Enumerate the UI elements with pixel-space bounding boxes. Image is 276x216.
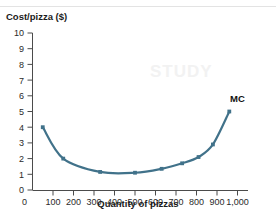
y-axis-tick-labels: 012345678910 [14, 28, 24, 195]
chart-plot-area: 012345678910 010020030040050060070080090… [0, 0, 276, 216]
y-tick-label: 6 [19, 91, 24, 101]
y-tick-label: 7 [19, 76, 24, 86]
series-data-point [211, 143, 215, 147]
chart-annotation-layer: MC [230, 93, 245, 104]
series-label-mc: MC [230, 93, 245, 104]
series-data-point [197, 155, 201, 159]
y-axis-group: 012345678910 [14, 28, 33, 195]
x-axis-ticks [53, 191, 238, 196]
y-tick-label: 5 [19, 107, 24, 117]
y-tick-label: 1 [19, 170, 24, 180]
y-tick-label: 3 [19, 138, 24, 148]
series-data-point [160, 167, 164, 171]
marginal-cost-chart-figure: STUDY Cost/pizza ($) 012345678910 010020… [0, 0, 276, 216]
y-tick-label: 2 [19, 154, 24, 164]
series-data-point [133, 171, 137, 175]
series-data-point [227, 110, 231, 114]
y-tick-label: 8 [19, 60, 24, 70]
series-data-point [98, 170, 102, 174]
data-series-layer [41, 110, 231, 175]
y-tick-label: 0 [19, 185, 24, 195]
x-axis-title: Quantity of pizzas [0, 198, 276, 209]
series-data-point [61, 157, 65, 161]
y-tick-label: 4 [19, 123, 24, 133]
series-line-mc [43, 112, 230, 174]
series-data-point [180, 161, 184, 165]
series-data-point [41, 125, 45, 129]
y-tick-label: 10 [14, 28, 24, 38]
y-axis-ticks [28, 33, 33, 190]
y-tick-label: 9 [19, 44, 24, 54]
